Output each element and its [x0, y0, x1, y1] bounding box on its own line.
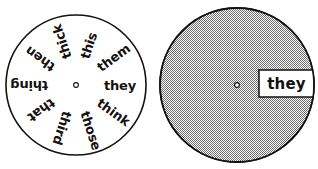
word-window-visible-word: they [267, 75, 306, 93]
wheel-word-that: that [25, 95, 58, 125]
wheel-word-thing: thing [11, 78, 49, 93]
wheel-word-this: this [78, 30, 101, 61]
wheel-word-thick: thick [49, 22, 74, 61]
word-wheel[interactable]: they them this thick then thing that thi… [6, 15, 146, 155]
wheel-word-them: them [94, 41, 133, 75]
wheel-word-think: think [94, 95, 133, 129]
wheel-word-then: then [22, 43, 57, 74]
word-wheel-pivot-hole [74, 83, 79, 88]
cover-disk-pivot-hole [235, 83, 240, 88]
wheel-word-third: third [50, 109, 75, 147]
wheel-word-those: those [78, 109, 105, 152]
cover-disk[interactable]: they [160, 8, 314, 162]
word-wheel-figure: they them this thick then thing that thi… [0, 0, 318, 169]
word-window-group[interactable]: they [259, 70, 314, 97]
wheel-word-they: they [104, 78, 137, 93]
figure-canvas: they them this thick then thing that thi… [0, 0, 318, 169]
